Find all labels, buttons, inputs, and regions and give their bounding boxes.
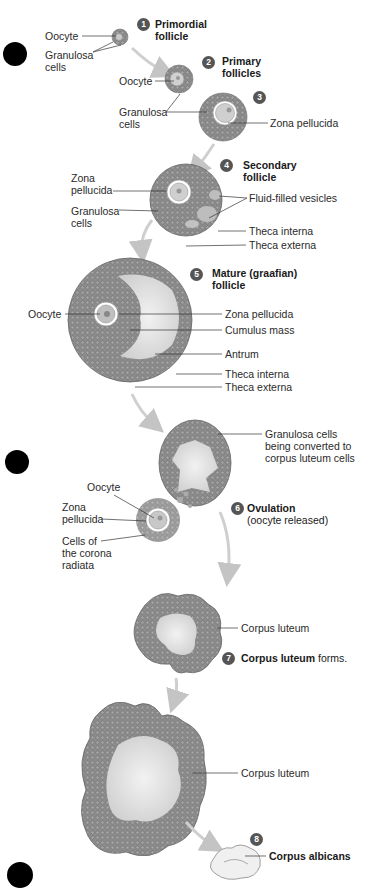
label-line: Granulosa	[45, 49, 93, 61]
label-oocyte: Oocyte	[87, 481, 120, 493]
primary-follicle	[165, 65, 193, 93]
stage-title-mature-graafian: Mature (graafian) follicle	[212, 267, 297, 291]
stage-title-secondary: Secondary follicle	[243, 159, 297, 183]
label-granulosa-cells: Granulosa cells	[45, 49, 93, 73]
ruptured-follicle	[159, 420, 231, 506]
label-line: the corona	[62, 547, 112, 559]
stage-number-badge: 4	[220, 159, 233, 172]
label-corona-radiata: Cells of the corona radiata	[62, 535, 112, 571]
label-theca-externa: Theca externa	[249, 239, 316, 251]
label-line: cells	[71, 217, 119, 229]
label-line: Granulosa cells	[265, 428, 355, 440]
label-line: cells	[119, 118, 167, 130]
label-line: Granulosa	[71, 205, 119, 217]
primordial-follicle	[112, 29, 128, 45]
label-oocyte: Oocyte	[28, 308, 61, 320]
stage-title-line: follicles	[222, 67, 261, 79]
stage-subtitle: (oocyte released)	[247, 514, 328, 526]
stage-number-badge: 7	[222, 652, 235, 665]
stage-title-corpus-albicans: Corpus albicans	[269, 850, 351, 862]
stage-title-corpus-luteum: Corpus luteum forms.	[241, 652, 347, 664]
label-oocyte: Oocyte	[45, 30, 78, 42]
secondary-follicle	[150, 164, 222, 236]
label-line: cells	[45, 61, 93, 73]
stage-number-badge: 3	[253, 91, 266, 104]
corpus-albicans	[210, 845, 260, 879]
label-line: Cells of	[62, 535, 112, 547]
label-zona-pellucida: Zona pellucida	[62, 501, 103, 525]
stage-number-badge: 6	[231, 502, 244, 515]
label-line: Granulosa	[119, 106, 167, 118]
black-dot-marker	[3, 42, 27, 66]
label-theca-interna: Theca interna	[249, 225, 313, 237]
stage-number-badge: 8	[250, 833, 263, 846]
black-dot-marker	[5, 450, 29, 474]
corpus-luteum	[134, 593, 222, 673]
stage-title-line: follicle	[243, 171, 297, 183]
stage-title-ovulation: Ovulation (oocyte released)	[247, 502, 328, 526]
label-granulosa-cells: Granulosa cells	[71, 205, 119, 229]
label-zona-pellucida: Zona pellucida	[71, 172, 112, 196]
stage-title-suffix: forms.	[315, 652, 347, 664]
black-dot-marker	[7, 862, 33, 888]
label-corpus-luteum: Corpus luteum	[241, 767, 309, 779]
stage-title-line: Primary	[222, 55, 261, 67]
label-fluid-filled-vesicles: Fluid-filled vesicles	[249, 192, 337, 204]
label-granulosa-cells: Granulosa cells	[119, 106, 167, 130]
label-zona-pellucida: Zona pellucida	[270, 117, 338, 129]
label-line: pellucida	[62, 513, 103, 525]
mature-graafian-follicle	[68, 258, 192, 382]
stage-number-badge: 1	[137, 18, 150, 31]
label-line: Zona	[62, 501, 103, 513]
stage-title-primary: Primary follicles	[222, 55, 261, 79]
label-theca-interna: Theca interna	[225, 368, 289, 380]
label-zona-pellucida: Zona pellucida	[225, 308, 293, 320]
label-antrum: Antrum	[225, 348, 259, 360]
label-line: corpus luteum cells	[265, 452, 355, 464]
stage-title-line: Primordial	[155, 18, 207, 30]
label-line: Zona	[71, 172, 112, 184]
stage-title-line: follicle	[212, 279, 297, 291]
label-theca-externa: Theca externa	[225, 381, 292, 393]
corpus-luteum-large	[81, 702, 206, 856]
stage-title-line: Secondary	[243, 159, 297, 171]
label-line: radiata	[62, 559, 112, 571]
stage-number-badge: 2	[202, 56, 215, 69]
stage-title-line: Mature (graafian)	[212, 267, 297, 279]
label-cumulus-mass: Cumulus mass	[225, 324, 294, 336]
stage-title-line: Ovulation	[247, 502, 328, 514]
primary-follicle-late	[199, 93, 247, 141]
stage-number-badge: 5	[190, 268, 203, 281]
stage-title-bold: Corpus luteum	[241, 652, 315, 664]
label-oocyte: Oocyte	[119, 75, 152, 87]
stage-title-line: follicle	[155, 30, 207, 42]
label-line: pellucida	[71, 184, 112, 196]
label-granulosa-cells-converting: Granulosa cells being converted to corpu…	[265, 428, 355, 464]
label-line: being converted to	[265, 440, 355, 452]
label-corpus-luteum: Corpus luteum	[241, 622, 309, 634]
stage-title-primordial: Primordial follicle	[155, 18, 207, 42]
